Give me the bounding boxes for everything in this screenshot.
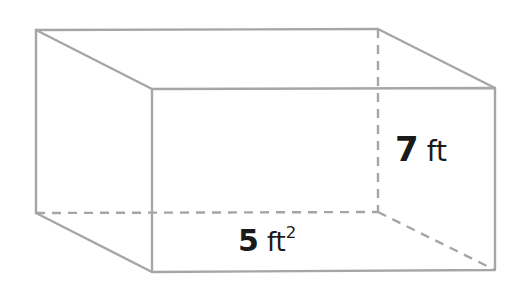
edge-bottom-right-diagonal-hidden — [378, 212, 495, 270]
edge-back-bottom-hidden — [36, 212, 378, 213]
edge-bottom-left-diagonal — [36, 213, 152, 272]
base-area-value: 5 — [238, 223, 259, 258]
prism-diagram: 7ft 5ft2 — [0, 0, 524, 305]
edge-top-right-diagonal — [378, 29, 495, 88]
base-area-exponent: 2 — [286, 223, 297, 242]
edge-back-top — [36, 29, 378, 30]
base-area-unit: ft — [267, 227, 286, 257]
base-area-label: 5ft2 — [238, 226, 296, 256]
edge-top-left-diagonal — [36, 30, 152, 89]
height-value: 7 — [395, 129, 419, 169]
front-face — [152, 88, 495, 272]
height-unit: ft — [427, 135, 447, 168]
height-label: 7ft — [395, 132, 447, 166]
